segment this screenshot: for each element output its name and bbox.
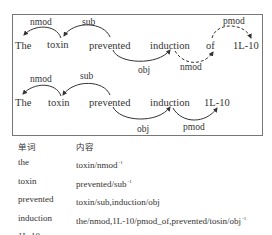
arc-obj: [113, 50, 170, 61]
cell-content: the/nmod,1L-10/pmod_of,prevented/tosin/o…: [76, 211, 246, 229]
content-text: toxin/sub,induction/obj: [76, 197, 160, 207]
cell-word: induction: [18, 211, 76, 229]
superscript: -1: [242, 216, 246, 221]
word-induction: induction: [150, 40, 190, 51]
word-1l-10: 1L-10: [204, 97, 230, 108]
superscript: -1: [127, 179, 131, 184]
superscript: -1: [154, 234, 158, 235]
cell-content: 1L-10/pmod_tosin/of-1: [76, 229, 158, 235]
table-row: 1L-10 1L-10/pmod_tosin/of-1: [18, 229, 246, 235]
content-text: prevented/sub: [76, 179, 126, 189]
content-text: toxin/nmod: [76, 160, 118, 170]
word-toxin: toxin: [48, 97, 70, 108]
diagram1-words: The toxin prevented induction of 1L-10: [15, 39, 259, 51]
cell-word: the: [18, 155, 76, 173]
cell-content: toxin/sub,induction/obj: [76, 192, 161, 210]
cell-word: 1L-10: [18, 229, 76, 235]
label-nmod: nmod: [180, 62, 202, 72]
table-row: toxin prevented/sub-1: [18, 174, 246, 192]
arc-pmod-dashed: [212, 26, 251, 38]
word-the: The: [15, 97, 32, 108]
word-the: The: [15, 40, 32, 51]
cell-word: prevented: [18, 192, 76, 210]
content-text: 1L-10/pmod_tosin/of: [76, 234, 153, 235]
arc-pmod: [173, 108, 217, 120]
content-text: the/nmod,1L-10/pmod_of,prevented/tosin/o…: [76, 216, 241, 226]
word-prevented: prevented: [89, 97, 131, 108]
word-of: of: [206, 40, 215, 51]
header-word: 单词: [18, 140, 76, 155]
word-induction: induction: [150, 97, 190, 108]
word-content-table: 单词 内容 the toxin/nmod-1 toxin prevented/s…: [18, 140, 246, 235]
label-obj: obj: [138, 65, 150, 75]
arc-sub: [63, 83, 110, 95]
arc-nmod-dashed: [175, 51, 213, 62]
table-row: prevented toxin/sub,induction/obj: [18, 192, 246, 210]
label-nmod: nmod: [30, 74, 52, 84]
table-row: induction the/nmod,1L-10/pmod_of,prevent…: [18, 211, 246, 229]
cell-word: toxin: [18, 174, 76, 192]
word-prevented: prevented: [89, 40, 131, 51]
cell-content: toxin/nmod-1: [76, 155, 123, 173]
diagram2-words: The toxin prevented induction 1L-10: [15, 97, 230, 108]
label-sub: sub: [80, 71, 93, 81]
label-nmod: nmod: [30, 17, 52, 27]
word-1l-10: 1L-10: [233, 40, 259, 51]
arc-obj: [113, 107, 170, 119]
table-header: 单词 内容: [18, 140, 246, 155]
label-sub: sub: [82, 17, 95, 27]
superscript: -1: [119, 160, 123, 165]
word-toxin: toxin: [47, 39, 69, 50]
label-obj: obj: [137, 124, 149, 134]
arc-nmod: [24, 27, 61, 38]
table-row: the toxin/nmod-1: [18, 155, 246, 173]
arc-nmod: [23, 85, 61, 96]
cell-content: prevented/sub-1: [76, 174, 132, 192]
header-content: 内容: [76, 140, 94, 155]
label-pmod: pmod: [183, 122, 205, 132]
dependency-diagrams: The toxin prevented induction of 1L-10 n…: [0, 0, 272, 140]
label-pmod: pmod: [223, 16, 245, 26]
